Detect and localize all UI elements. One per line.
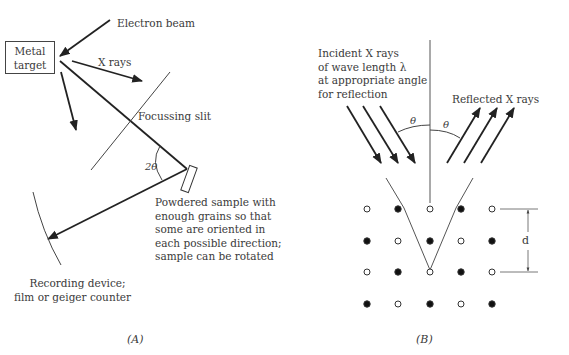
- atom-filled: [395, 269, 401, 275]
- incident-desc-line: Incident X rays: [318, 47, 427, 61]
- atom-open: [458, 238, 464, 244]
- atom-filled: [489, 301, 495, 307]
- recording-device-label: Recording device; film or geiger counter: [14, 277, 131, 304]
- atom-filled: [458, 269, 464, 275]
- atom-filled: [364, 238, 370, 244]
- reflected-x-rays-label: Reflected X rays: [452, 93, 539, 107]
- incident-ray-2: [363, 106, 398, 163]
- sample-description: Powdered sample with enough grains so th…: [155, 196, 282, 264]
- x-rays-label: X rays: [98, 56, 131, 70]
- atom-open: [395, 301, 401, 307]
- metal-target-label-line1: Metal: [6, 44, 54, 58]
- focussing-slit-label: Focussing slit: [138, 110, 211, 124]
- atom-open: [489, 269, 495, 275]
- theta-right-label: θ: [443, 118, 449, 132]
- atom-filled: [364, 301, 370, 307]
- sample-desc-line: some are oriented in: [155, 223, 282, 237]
- incident-desc-line: at appropriate angle: [318, 74, 427, 88]
- atom-filled: [395, 206, 401, 212]
- reflected-ray-2: [464, 108, 497, 163]
- recording-desc-line: film or geiger counter: [14, 291, 131, 305]
- atom-filled: [489, 238, 495, 244]
- reflected-ray-3: [481, 108, 514, 163]
- angle-2theta-label: 2θ: [145, 160, 157, 174]
- atom-open: [364, 269, 370, 275]
- sample-desc-line: each possible direction;: [155, 237, 282, 251]
- recording-device-arc: [33, 192, 61, 265]
- sample-desc-line: enough grains so that: [155, 210, 282, 224]
- atom-open: [489, 206, 495, 212]
- incident-ray-1: [347, 106, 381, 163]
- incident-desc-line: for reflection: [318, 88, 427, 102]
- crystal-lattice: [364, 206, 495, 307]
- recording-desc-line: Recording device;: [14, 277, 131, 291]
- powdered-sample: [181, 165, 197, 192]
- atom-open: [395, 238, 401, 244]
- spacing-d-label: d: [522, 234, 529, 248]
- atom-filled: [427, 301, 433, 307]
- metal-target-box: Metal target: [5, 41, 55, 74]
- sample-desc-line: sample can be rotated: [155, 250, 282, 264]
- metal-target-label-line2: target: [6, 58, 54, 72]
- atom-filled: [458, 206, 464, 212]
- sample-desc-line: Powdered sample with: [155, 196, 282, 210]
- theta-left-label: θ: [410, 114, 416, 128]
- incident-desc-line: of wave length λ: [318, 61, 427, 75]
- atom-open: [427, 206, 433, 212]
- caption-b: (B): [416, 333, 433, 347]
- atom-open: [427, 269, 433, 275]
- reflected-ray-1: [447, 108, 480, 163]
- x-ray-down-arrow: [61, 72, 76, 130]
- electron-beam-label: Electron beam: [117, 17, 195, 31]
- atom-filled: [427, 238, 433, 244]
- atom-open: [458, 301, 464, 307]
- caption-a: (A): [127, 333, 144, 347]
- atom-open: [364, 206, 370, 212]
- incident-description: Incident X rays of wave length λ at appr…: [318, 47, 427, 101]
- electron-beam-arrow: [60, 20, 110, 56]
